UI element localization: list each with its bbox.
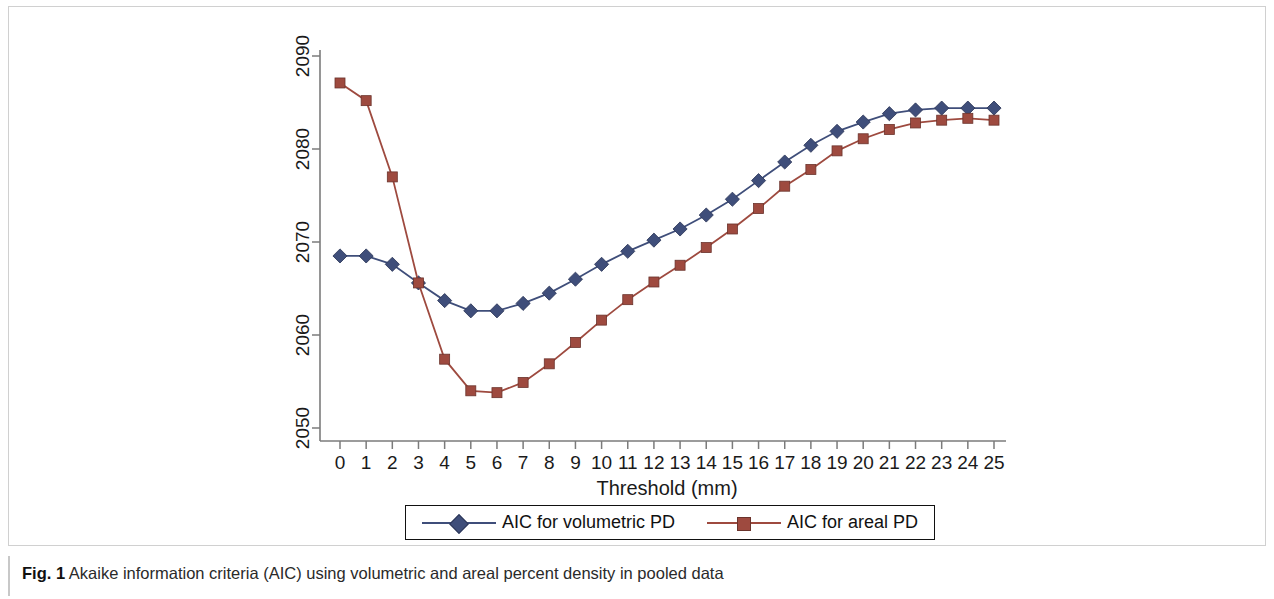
data-point-marker	[621, 244, 635, 258]
x-tick-label: 0	[335, 452, 346, 473]
data-point-marker	[804, 138, 818, 152]
data-point-marker	[542, 286, 556, 300]
data-point-marker	[673, 222, 687, 236]
y-tick-label: 2080	[292, 128, 313, 170]
legend-swatch-volumetric	[422, 516, 496, 530]
x-tick-label: 15	[722, 452, 743, 473]
x-tick-label: 7	[518, 452, 529, 473]
x-tick-label: 13	[670, 452, 691, 473]
data-point-marker	[701, 243, 711, 253]
legend-label-areal: AIC for areal PD	[787, 512, 918, 533]
x-tick-label: 18	[800, 452, 821, 473]
chart-svg: 2050206020702080209001234567891011121314…	[9, 7, 1267, 547]
data-point-marker	[830, 124, 844, 138]
data-point-marker	[333, 249, 347, 263]
x-tick-label: 12	[643, 452, 664, 473]
caption-label: Fig. 1	[22, 564, 65, 582]
y-tick-label: 2060	[292, 314, 313, 356]
caption-text: Akaike information criteria (AIC) using …	[69, 564, 724, 582]
figure-caption: Fig. 1 Akaike information criteria (AIC)…	[22, 563, 1252, 584]
x-tick-label: 25	[983, 452, 1004, 473]
x-tick-label: 2	[387, 452, 398, 473]
figure-panel: 2050206020702080209001234567891011121314…	[8, 6, 1266, 546]
data-point-marker	[937, 115, 947, 125]
chart-plot-area: 2050206020702080209001234567891011121314…	[9, 7, 1267, 547]
data-point-marker	[963, 113, 973, 123]
x-tick-label: 11	[618, 452, 638, 473]
legend-swatch-areal	[707, 516, 781, 530]
x-tick-label: 19	[826, 452, 847, 473]
data-point-marker	[361, 96, 371, 106]
y-tick-label: 2050	[292, 407, 313, 449]
y-tick-label: 2070	[292, 221, 313, 263]
data-point-marker	[492, 388, 502, 398]
data-point-marker	[725, 192, 739, 206]
data-point-marker	[438, 294, 452, 308]
data-point-marker	[516, 296, 530, 310]
x-tick-label: 24	[957, 452, 979, 473]
x-tick-label: 23	[931, 452, 952, 473]
x-tick-label: 1	[361, 452, 372, 473]
x-axis-title: Threshold (mm)	[596, 477, 737, 499]
data-point-marker	[385, 257, 399, 271]
series-line-1	[340, 83, 994, 393]
data-point-marker	[544, 359, 554, 369]
data-point-marker	[464, 304, 478, 318]
data-point-marker	[806, 164, 816, 174]
square-marker-icon	[737, 517, 751, 531]
x-tick-label: 17	[774, 452, 795, 473]
data-point-marker	[440, 354, 450, 364]
series-line-0	[340, 108, 994, 311]
legend-entry-areal: AIC for areal PD	[707, 512, 918, 533]
data-point-marker	[647, 233, 661, 247]
data-point-marker	[595, 257, 609, 271]
figure-screenshot: 2050206020702080209001234567891011121314…	[0, 0, 1274, 599]
data-point-marker	[935, 101, 949, 115]
data-point-marker	[884, 124, 894, 134]
legend-entry-volumetric: AIC for volumetric PD	[422, 512, 675, 533]
chart-series	[333, 78, 1001, 398]
data-point-marker	[778, 155, 792, 169]
data-point-marker	[387, 172, 397, 182]
x-tick-label: 20	[853, 452, 874, 473]
data-point-marker	[649, 277, 659, 287]
chart-legend: AIC for volumetric PD AIC for areal PD	[405, 505, 935, 540]
data-point-marker	[413, 278, 423, 288]
data-point-marker	[727, 224, 737, 234]
diamond-marker-icon	[449, 514, 469, 534]
legend-label-volumetric: AIC for volumetric PD	[502, 512, 675, 533]
data-point-marker	[908, 103, 922, 117]
data-point-marker	[780, 181, 790, 191]
data-point-marker	[754, 204, 764, 214]
caption-left-rule	[8, 556, 10, 596]
chart-axis-titles: Threshold (mm)	[596, 477, 737, 499]
data-point-marker	[597, 315, 607, 325]
x-tick-label: 10	[591, 452, 612, 473]
x-tick-label: 4	[439, 452, 450, 473]
x-tick-label: 22	[905, 452, 926, 473]
x-tick-label: 6	[492, 452, 503, 473]
data-point-marker	[989, 115, 999, 125]
y-tick-label: 2090	[292, 35, 313, 77]
chart-axes: 2050206020702080209001234567891011121314…	[292, 35, 1006, 473]
data-point-marker	[623, 295, 633, 305]
data-point-marker	[675, 260, 685, 270]
x-tick-label: 16	[748, 452, 769, 473]
data-point-marker	[570, 337, 580, 347]
x-tick-label: 9	[570, 452, 581, 473]
x-tick-label: 8	[544, 452, 555, 473]
data-point-marker	[858, 134, 868, 144]
data-point-marker	[987, 101, 1001, 115]
data-point-marker	[911, 118, 921, 128]
data-point-marker	[335, 78, 345, 88]
data-point-marker	[856, 115, 870, 129]
x-tick-label: 14	[696, 452, 718, 473]
data-point-marker	[882, 107, 896, 121]
data-point-marker	[751, 174, 765, 188]
data-point-marker	[359, 249, 373, 263]
data-point-marker	[466, 386, 476, 396]
data-point-marker	[518, 377, 528, 387]
x-tick-label: 5	[466, 452, 477, 473]
x-tick-label: 21	[879, 452, 900, 473]
data-point-marker	[568, 272, 582, 286]
